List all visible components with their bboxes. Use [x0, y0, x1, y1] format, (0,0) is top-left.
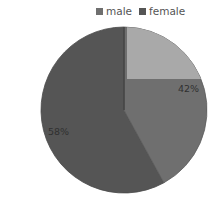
- pie-highlight: [127, 27, 207, 79]
- slice-label-female: 58%: [48, 126, 69, 137]
- pie-chart: 42% 58%: [0, 0, 222, 214]
- slice-label-male: 42%: [178, 83, 199, 94]
